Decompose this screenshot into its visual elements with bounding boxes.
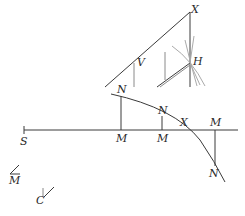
label-v: V: [137, 57, 145, 68]
c-small-stroke: [44, 187, 54, 197]
lower-construction: [24, 94, 238, 182]
label-h: H: [193, 56, 203, 67]
h-diagonal-line: [157, 63, 190, 87]
upper-construction: [105, 12, 205, 87]
label-s: S: [20, 136, 28, 147]
label-m3: M: [210, 117, 221, 128]
label-m2: M: [157, 133, 168, 144]
label-n2: N: [158, 105, 168, 116]
label-x-mid: X: [180, 117, 188, 128]
label-n3: N: [209, 168, 219, 179]
label-m-small: M: [9, 175, 20, 186]
label-c-small: C: [36, 195, 44, 206]
label-m1: M: [116, 133, 127, 144]
label-n1: N: [117, 84, 127, 95]
m-small-stroke: [10, 165, 19, 174]
geometric-figure: [0, 0, 245, 216]
label-x-top: X: [191, 4, 199, 15]
